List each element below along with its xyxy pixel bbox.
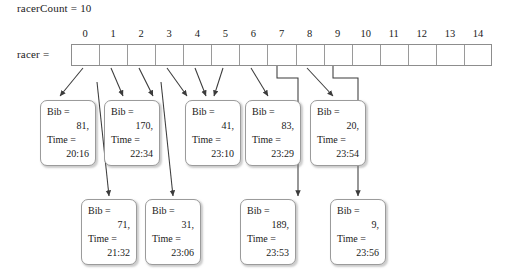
diagram-canvas: racerCount = 10 racer =	[0, 0, 506, 272]
time-label: Time =	[252, 133, 294, 147]
time-label: Time =	[317, 133, 359, 147]
list-node: Bib = 81, Time = 20:16	[40, 100, 96, 166]
array-index-0: 0	[71, 28, 99, 39]
array-cell-12	[409, 45, 437, 65]
time-value: 23:54	[317, 147, 359, 161]
array-index-3: 3	[155, 28, 183, 39]
time-label: Time =	[47, 133, 89, 147]
bib-value: 81,	[47, 119, 89, 133]
array-cell-14	[465, 45, 493, 65]
array-index-10: 10	[352, 28, 380, 39]
list-node: Bib = 170, Time = 22:34	[104, 100, 160, 166]
array-index-1: 1	[99, 28, 127, 39]
bib-value: 41,	[192, 119, 234, 133]
time-value: 23:29	[252, 147, 294, 161]
array-cell-10	[353, 45, 381, 65]
array-index-5: 5	[211, 28, 239, 39]
array-cell-7	[268, 45, 296, 65]
bib-label: Bib =	[88, 204, 130, 218]
time-label: Time =	[247, 232, 289, 246]
bib-label: Bib =	[317, 105, 359, 119]
time-label: Time =	[88, 232, 130, 246]
bib-value: 31,	[152, 218, 194, 232]
time-label: Time =	[192, 133, 234, 147]
array-cell-6	[240, 45, 268, 65]
array-index-9: 9	[324, 28, 352, 39]
time-value: 23:06	[152, 246, 194, 260]
time-value: 23:10	[192, 147, 234, 161]
list-node: Bib = 189, Time = 23:53	[240, 199, 296, 265]
time-value: 20:16	[47, 147, 89, 161]
list-node: Bib = 83, Time = 23:29	[245, 100, 301, 166]
array-cell-5	[212, 45, 240, 65]
bib-value: 189,	[247, 218, 289, 232]
bib-value: 170,	[111, 119, 153, 133]
time-value: 22:34	[111, 147, 153, 161]
array-cell-3	[156, 45, 184, 65]
bib-label: Bib =	[252, 105, 294, 119]
time-label: Time =	[337, 232, 379, 246]
array-cell-8	[297, 45, 325, 65]
time-label: Time =	[152, 232, 194, 246]
array-index-7: 7	[268, 28, 296, 39]
array-cell-11	[381, 45, 409, 65]
array-index-8: 8	[296, 28, 324, 39]
array-index-4: 4	[183, 28, 211, 39]
bib-label: Bib =	[152, 204, 194, 218]
array-cell-0	[72, 45, 100, 65]
array-index-6: 6	[239, 28, 267, 39]
bib-label: Bib =	[47, 105, 89, 119]
array-cell-1	[100, 45, 128, 65]
bib-value: 71,	[88, 218, 130, 232]
array-index-12: 12	[408, 28, 436, 39]
bib-label: Bib =	[192, 105, 234, 119]
list-node: Bib = 41, Time = 23:10	[185, 100, 241, 166]
list-node: Bib = 31, Time = 23:06	[145, 199, 201, 265]
array-index-11: 11	[380, 28, 408, 39]
time-label: Time =	[111, 133, 153, 147]
bib-value: 9,	[337, 218, 379, 232]
time-value: 23:53	[247, 246, 289, 260]
time-value: 23:56	[337, 246, 379, 260]
list-node: Bib = 20, Time = 23:54	[310, 100, 366, 166]
array-index-14: 14	[464, 28, 492, 39]
array-cell-2	[128, 45, 156, 65]
racer-array-label: racer =	[17, 48, 49, 60]
array-cell-13	[437, 45, 465, 65]
array-cell-9	[325, 45, 353, 65]
racer-count-label: racerCount = 10	[17, 2, 92, 14]
bib-label: Bib =	[111, 105, 153, 119]
bib-value: 20,	[317, 119, 359, 133]
bib-label: Bib =	[337, 204, 379, 218]
array-index-2: 2	[127, 28, 155, 39]
list-node: Bib = 71, Time = 21:32	[81, 199, 137, 265]
bib-value: 83,	[252, 119, 294, 133]
array-cell-4	[184, 45, 212, 65]
time-value: 21:32	[88, 246, 130, 260]
bib-label: Bib =	[247, 204, 289, 218]
racer-array	[71, 44, 492, 66]
list-node: Bib = 9, Time = 23:56	[330, 199, 386, 265]
array-index-13: 13	[436, 28, 464, 39]
